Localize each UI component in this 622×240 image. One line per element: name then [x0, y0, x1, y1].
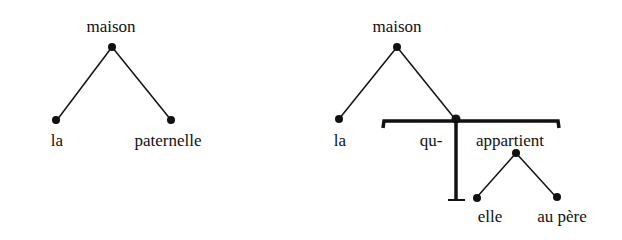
label-la: la — [334, 131, 347, 150]
node-root — [108, 43, 116, 51]
edge-root-la — [339, 47, 397, 119]
right-tree: maison la qu- appartient elle au père — [334, 17, 587, 226]
stemma-diagram: maison la paternelle maison la qu- appar… — [0, 0, 622, 240]
label-appartient: appartient — [476, 131, 544, 150]
node-root — [393, 43, 401, 51]
label-paternelle: paternelle — [134, 131, 201, 150]
junction-bar — [383, 121, 559, 128]
label-root: maison — [86, 17, 136, 36]
edge-verb-elle — [477, 153, 516, 197]
label-root: maison — [372, 17, 422, 36]
node-elle — [473, 194, 481, 202]
node-la — [335, 115, 343, 123]
edge-root-junction — [397, 47, 455, 119]
left-tree: maison la paternelle — [51, 17, 202, 150]
node-paternelle — [167, 116, 175, 124]
edge-verb-aupere — [516, 153, 556, 197]
edge-root-la — [57, 47, 112, 120]
label-elle: elle — [478, 207, 503, 226]
label-la: la — [51, 131, 64, 150]
node-aupere — [553, 193, 561, 201]
label-aupere: au père — [537, 207, 587, 226]
edge-root-paternelle — [112, 47, 171, 120]
label-qu: qu- — [420, 131, 443, 150]
node-la — [52, 116, 60, 124]
node-junction — [452, 115, 461, 124]
node-verb — [512, 149, 520, 157]
